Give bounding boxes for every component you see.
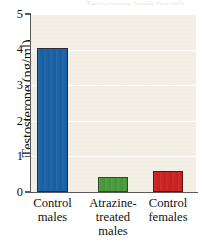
y-axis-tick [25, 120, 31, 121]
bar-atrazine-treated-males [98, 177, 128, 192]
y-axis-tick-label: 4 [9, 43, 23, 56]
bar-control-males [37, 48, 68, 192]
y-axis-tick [25, 85, 31, 86]
x-axis-category-label: Controlfemales [133, 196, 202, 224]
y-axis-tick [25, 191, 31, 192]
y-axis-tick [25, 156, 31, 157]
y-axis-tick-label: 3 [9, 79, 23, 92]
y-axis-tick [25, 49, 31, 50]
y-axis-line [30, 13, 31, 193]
gridline [31, 14, 196, 15]
cropped-caption-text: Testosterone levels (ng/ml) [86, 0, 198, 5]
category-label-line: Control [133, 196, 202, 210]
category-label-line: females [133, 210, 202, 224]
y-axis-tick-label: 1 [9, 150, 23, 163]
y-axis-tick [25, 13, 31, 14]
bar-control-females [153, 171, 183, 192]
y-axis-tick-label: 2 [9, 115, 23, 128]
figure-testosterone-bar-chart: Testosterone levels (ng/ml) Testosterone… [0, 0, 202, 241]
category-label-line: males [76, 224, 150, 238]
y-axis-tick-label: 5 [9, 8, 23, 21]
